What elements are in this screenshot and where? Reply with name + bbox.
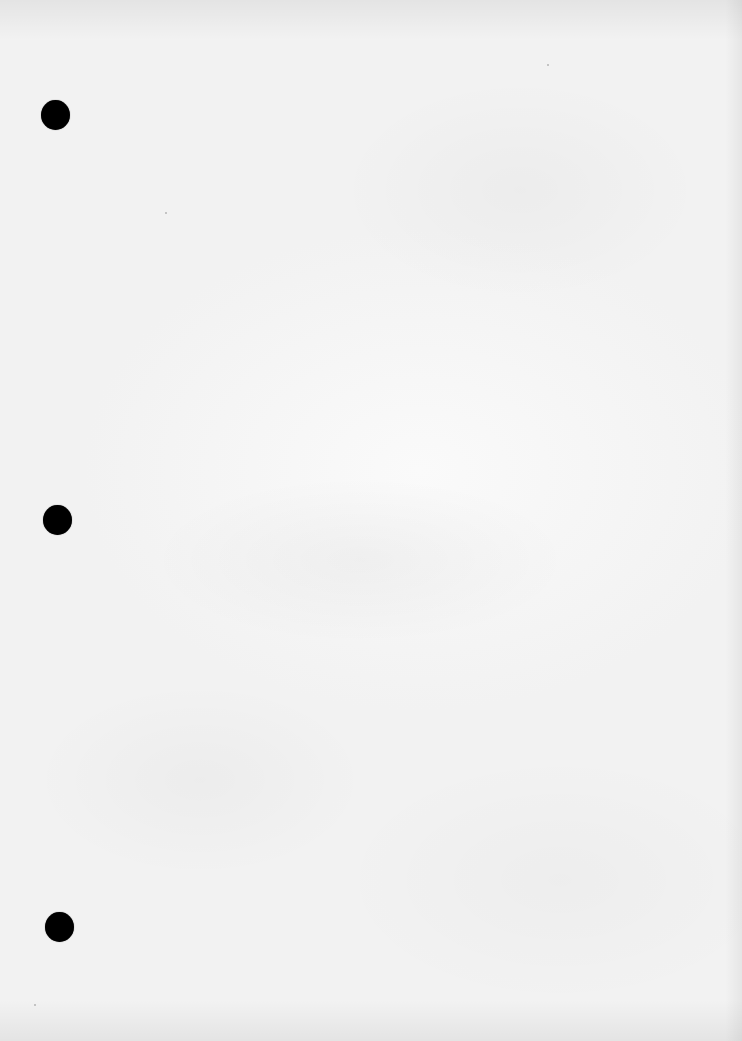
paper-speck: [547, 64, 549, 66]
paper-sheet: [0, 0, 742, 1041]
punch-hole-bottom: [45, 912, 74, 942]
paper-speck: [165, 212, 167, 214]
punch-hole-top: [41, 100, 70, 130]
paper-speck: [34, 1004, 36, 1006]
punch-hole-middle: [43, 505, 72, 535]
